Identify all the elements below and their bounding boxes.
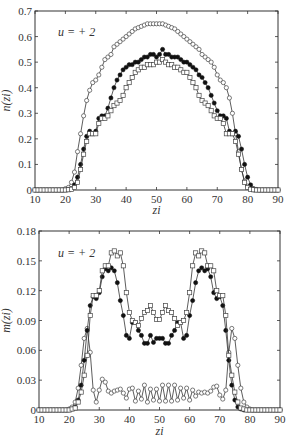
y-tick-label: 0.12: [17, 285, 36, 297]
x-tick-label: 80: [244, 413, 256, 425]
x-tick-label: 40: [121, 193, 133, 205]
x-tick-label: 80: [242, 193, 254, 205]
y-axis-label: m(zi): [0, 308, 13, 333]
y-tick-label: 0: [31, 404, 37, 416]
y-tick-label: 0.2: [18, 133, 32, 145]
y-tick-label: 0: [27, 184, 33, 196]
series-circle-filled: [37, 266, 282, 412]
y-tick-label: 0.7: [18, 5, 32, 17]
magnetization-chart: 10203040506070809000.030.060.090.120.150…: [0, 221, 291, 442]
y-axis-label: n(zi): [0, 90, 13, 112]
x-axis-label: zi: [154, 424, 163, 438]
x-tick-label: 30: [90, 193, 102, 205]
x-tick-label: 60: [181, 193, 193, 205]
y-tick-label: 0.4: [18, 82, 32, 94]
x-tick-label: 30: [94, 413, 106, 425]
magnetization-chart-panel: 10203040506070809000.030.060.090.120.150…: [0, 221, 291, 442]
series-square-open: [33, 57, 280, 192]
x-tick-label: 20: [64, 413, 76, 425]
x-tick-label: 90: [275, 413, 287, 425]
y-tick-label: 0.5: [18, 56, 32, 68]
parameter-annotation: u = + 2: [58, 246, 95, 260]
y-tick-label: 0.15: [17, 255, 37, 267]
x-tick-label: 90: [273, 193, 285, 205]
density-chart: 10203040506070809000.10.20.30.40.50.60.7…: [0, 0, 291, 221]
y-tick-label: 0.18: [17, 225, 37, 237]
y-tick-label: 0.1: [18, 158, 32, 170]
x-tick-label: 70: [214, 413, 226, 425]
x-tick-label: 60: [184, 413, 196, 425]
x-axis-label: zi: [151, 203, 160, 217]
series-square-open: [37, 249, 282, 412]
x-tick-label: 40: [124, 413, 136, 425]
x-tick-label: 20: [60, 193, 72, 205]
y-tick-label: 0.03: [17, 374, 37, 386]
y-tick-label: 0.6: [18, 31, 32, 43]
parameter-annotation: u = + 2: [58, 25, 95, 39]
y-tick-label: 0.3: [18, 107, 32, 119]
series-circle-open: [33, 22, 280, 192]
y-tick-label: 0.09: [17, 315, 37, 327]
x-tick-label: 70: [212, 193, 224, 205]
y-tick-label: 0.06: [17, 344, 37, 356]
density-chart-panel: 10203040506070809000.10.20.30.40.50.60.7…: [0, 0, 291, 221]
